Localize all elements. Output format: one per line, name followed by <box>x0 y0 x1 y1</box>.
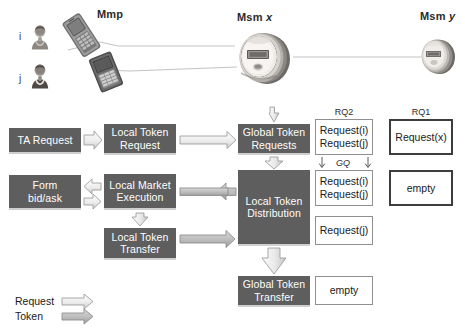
rq2-header: RQ2 <box>315 107 373 117</box>
diagram-canvas: i j Mmp <box>0 0 465 335</box>
center-bottom-empty-queue[interactable]: empty <box>315 276 373 305</box>
rq2-low-line1: Request(j) <box>320 224 368 237</box>
gq-arrow-left <box>319 157 325 168</box>
rq1-header: RQ1 <box>389 107 453 117</box>
arrow-market-to-token-transfer <box>132 213 148 226</box>
arrow-global-requests-to-distribution <box>265 157 283 169</box>
arrow-ta-to-local-request <box>84 131 102 149</box>
legend-label-request: Request <box>15 295 54 307</box>
rq2-queue-top[interactable]: Request(i) Request(j) <box>315 119 373 155</box>
gq-arrow-right <box>365 157 371 168</box>
legend-arrow-token <box>62 309 93 324</box>
arrow-distribution-to-global-transfer <box>262 248 286 274</box>
rq2-queue-low[interactable]: Request(j) <box>315 216 373 245</box>
rq2-mid-line2: Request(j) <box>320 188 368 201</box>
flow-arrows <box>0 0 465 335</box>
arrow-market-to-form <box>84 179 101 194</box>
arrow-local-request-to-global-requests <box>180 132 236 149</box>
rq2-top-line2: Request(j) <box>320 137 368 150</box>
rq1-queue-mid[interactable]: empty <box>389 170 453 206</box>
center-bottom-line1: empty <box>330 284 359 297</box>
rq2-top-line1: Request(i) <box>320 124 368 137</box>
rq1-top-line1: Request(x) <box>395 131 446 144</box>
rq2-queue-mid[interactable]: Request(i) Request(j) <box>315 170 373 206</box>
rq1-queue-top[interactable]: Request(x) <box>389 119 453 155</box>
arrow-token-transfer-to-distribution <box>180 231 235 248</box>
rq1-mid-line1: empty <box>407 182 436 195</box>
arrow-distribution-to-market-shaft <box>180 188 228 196</box>
legend-arrow-request <box>62 294 93 309</box>
gq-label: GQ <box>336 158 350 168</box>
legend-label-token: Token <box>15 310 43 322</box>
rq2-mid-line1: Request(i) <box>320 175 368 188</box>
arrow-form-to-market <box>84 194 101 209</box>
arrow-into-global-requests <box>269 107 279 122</box>
